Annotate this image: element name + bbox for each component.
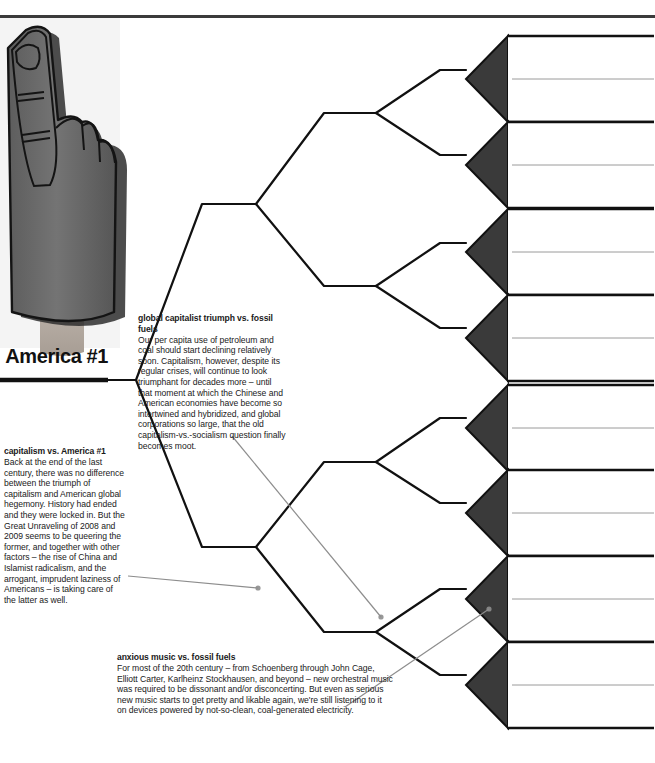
caption-title: capitalism vs. America #1 bbox=[4, 446, 126, 457]
caption-body: Our per capita use of petroleum and coal… bbox=[138, 335, 286, 452]
root-node-label: America #1 bbox=[5, 345, 108, 368]
caption-anxious-music: anxious music vs. fossil fuels For most … bbox=[117, 652, 393, 716]
caption-body: Back at the end of the last century, the… bbox=[4, 457, 126, 605]
caption-body: For most of the 20th century – from Scho… bbox=[117, 663, 393, 716]
caption-global-capitalist-triumph: global capitalist triumph vs. fossil fue… bbox=[138, 313, 286, 451]
diagram-page: America #1 capitalism vs. America #1 Bac… bbox=[0, 0, 655, 763]
caption-title: anxious music vs. fossil fuels bbox=[117, 652, 393, 663]
caption-capitalism-vs-america: capitalism vs. America #1 Back at the en… bbox=[4, 446, 126, 605]
annotation-leader-lines bbox=[0, 0, 655, 763]
caption-title: global capitalist triumph vs. fossil fue… bbox=[138, 313, 286, 334]
